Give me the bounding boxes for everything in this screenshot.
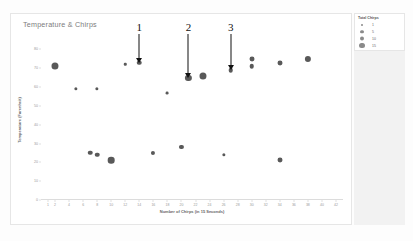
y-axis-tick-mark <box>39 105 41 106</box>
y-axis-tick-mark <box>39 87 41 88</box>
legend-bubble-icon <box>361 23 363 25</box>
x-axis-tick-mark <box>83 200 84 202</box>
data-point-bubble[interactable] <box>277 60 282 65</box>
x-axis-tick-label: 4 <box>68 203 70 207</box>
y-axis-tick-label: 80 <box>34 47 38 51</box>
data-point-bubble[interactable] <box>166 91 169 94</box>
x-axis-tick-mark <box>251 200 252 202</box>
x-axis-tick-mark <box>55 200 56 202</box>
legend-bubble-icon <box>359 43 365 49</box>
x-axis-tick-label: 8 <box>96 203 98 207</box>
x-axis-tick-mark <box>167 200 168 202</box>
x-axis-tick-label: 1 <box>47 203 49 207</box>
x-axis-tick-mark <box>335 200 336 202</box>
callout-arrow-head-icon <box>185 73 191 78</box>
x-axis-tick-label: 28 <box>236 203 240 207</box>
x-axis-tick-label: 6 <box>82 203 84 207</box>
x-axis-tick-mark <box>181 200 182 202</box>
legend-bubble-icon <box>360 30 364 34</box>
data-point-bubble[interactable] <box>88 151 93 156</box>
legend-item-label: 1 <box>372 23 374 27</box>
callout-arrow-shaft <box>230 34 231 65</box>
callout-arrow-shaft <box>139 34 140 58</box>
x-axis-tick-label: 18 <box>165 203 169 207</box>
screenshot-root: Temperature & Chirps Number of Chirps (i… <box>0 0 413 241</box>
x-axis-title: Number of Chirps (in 15 Seconds) <box>160 209 224 214</box>
y-axis-tick-label: 0 <box>36 198 38 202</box>
x-axis-tick-label: 42 <box>334 203 338 207</box>
legend-panel[interactable]: Total Chirps 151015 <box>354 13 405 51</box>
x-axis-tick-mark <box>125 200 126 202</box>
y-axis-tick-mark <box>39 49 41 50</box>
data-point-bubble[interactable] <box>108 157 115 164</box>
x-axis-tick-label: 10 <box>109 203 113 207</box>
y-axis-tick-label: 50 <box>34 104 38 108</box>
plot-background <box>41 40 343 200</box>
y-axis-tick-label: 40 <box>34 123 38 127</box>
x-axis-tick-mark <box>321 200 322 202</box>
x-axis-tick-label: 32 <box>264 203 268 207</box>
y-axis-tick-label: 60 <box>34 85 38 89</box>
callout-number: 3 <box>228 22 234 33</box>
y-axis-tick-label: 20 <box>34 160 38 164</box>
legend-title: Total Chirps <box>358 16 379 20</box>
x-axis-tick-label: 14 <box>137 203 141 207</box>
x-axis-tick-mark <box>265 200 266 202</box>
x-axis-tick-mark <box>307 200 308 202</box>
callout-arrow-head-icon <box>228 65 234 70</box>
plot-area[interactable]: Number of Chirps (in 15 Seconds) Tempera… <box>41 40 343 200</box>
legend-item-label: 10 <box>372 37 376 41</box>
x-axis-tick-mark <box>153 200 154 202</box>
x-axis-line <box>41 199 343 200</box>
x-axis-tick-label: 30 <box>250 203 254 207</box>
x-axis-tick-mark <box>279 200 280 202</box>
x-axis-tick-mark <box>48 200 49 202</box>
x-axis-tick-mark <box>293 200 294 202</box>
y-axis-tick-mark <box>39 143 41 144</box>
x-axis-tick-label: 20 <box>180 203 184 207</box>
data-point-bubble[interactable] <box>95 153 100 158</box>
data-point-bubble[interactable] <box>249 56 254 61</box>
data-point-bubble[interactable] <box>249 64 254 69</box>
chart-title: Temperature & Chirps <box>23 20 97 29</box>
x-axis-tick-mark <box>223 200 224 202</box>
x-axis-tick-label: 2 <box>54 203 56 207</box>
callout-number: 2 <box>186 22 192 33</box>
data-point-bubble[interactable] <box>199 72 206 79</box>
y-axis-tick-mark <box>39 162 41 163</box>
x-axis-tick-label: 40 <box>320 203 324 207</box>
legend-side-panel <box>354 51 405 225</box>
x-axis-tick-mark <box>69 200 70 202</box>
chart-panel[interactable]: Temperature & Chirps Number of Chirps (i… <box>10 13 352 225</box>
y-axis-tick-label: 70 <box>34 66 38 70</box>
x-axis-tick-label: 38 <box>306 203 310 207</box>
y-axis-tick-mark <box>39 68 41 69</box>
x-axis-tick-mark <box>139 200 140 202</box>
y-axis-tick-label: 10 <box>34 179 38 183</box>
legend-item-label: 15 <box>372 44 376 48</box>
x-axis-tick-mark <box>111 200 112 202</box>
data-point-bubble[interactable] <box>52 63 59 70</box>
y-axis-tick-label: 30 <box>34 142 38 146</box>
data-point-bubble[interactable] <box>277 158 282 163</box>
x-axis-tick-label: 16 <box>151 203 155 207</box>
y-axis-tick-mark <box>39 124 41 125</box>
callout-number: 1 <box>137 22 143 33</box>
x-axis-tick-label: 24 <box>208 203 212 207</box>
x-axis-tick-label: 22 <box>194 203 198 207</box>
y-axis-title: Temperature (Farenheit) <box>17 97 22 143</box>
x-axis-tick-label: 36 <box>292 203 296 207</box>
callout-arrow-head-icon <box>136 58 142 63</box>
x-axis-tick-mark <box>97 200 98 202</box>
legend-bubble-icon <box>360 36 365 41</box>
x-axis-tick-mark <box>195 200 196 202</box>
x-axis-tick-label: 34 <box>278 203 282 207</box>
x-axis-tick-label: 12 <box>123 203 127 207</box>
y-axis-tick-mark <box>39 181 41 182</box>
legend-item-label: 5 <box>372 30 374 34</box>
x-axis-tick-mark <box>209 200 210 202</box>
y-axis-tick-mark <box>39 200 41 201</box>
x-axis-tick-mark <box>237 200 238 202</box>
x-axis-tick-label: 26 <box>222 203 226 207</box>
callout-arrow-shaft <box>188 34 189 73</box>
